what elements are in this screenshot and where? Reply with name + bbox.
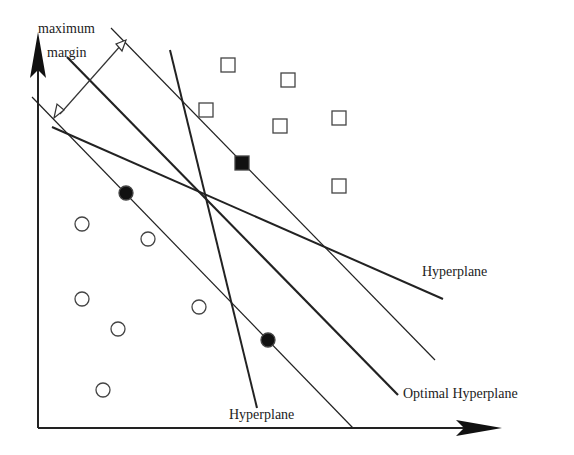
data-point-square <box>273 119 287 133</box>
data-point-square <box>199 103 213 117</box>
support-vector-circle <box>261 333 275 347</box>
maximum-margin-label-1: maximum <box>38 21 95 37</box>
data-point-square <box>281 73 295 87</box>
data-point-square <box>332 111 346 125</box>
support-vector-circle <box>119 186 133 200</box>
support-vector-square <box>235 156 249 170</box>
data-point-circle <box>75 292 89 306</box>
data-point-circle <box>111 322 125 336</box>
data-point-square <box>221 58 235 72</box>
hyperplane-label-bottom: Hyperplane <box>229 407 294 423</box>
data-point-square <box>332 179 346 193</box>
optimal-line <box>67 57 398 395</box>
data-point-circle <box>192 300 206 314</box>
optimal-hyperplane-label: Optimal Hyperplane <box>403 386 518 402</box>
upper-margin-line <box>111 28 435 360</box>
data-point-circle <box>141 232 155 246</box>
maximum-margin-label-2: margin <box>47 45 86 61</box>
hyperplane-label-right: Hyperplane <box>422 264 487 280</box>
hyperplane-shallow-line <box>52 127 443 299</box>
data-point-circle <box>75 217 89 231</box>
data-point-circle <box>96 383 110 397</box>
